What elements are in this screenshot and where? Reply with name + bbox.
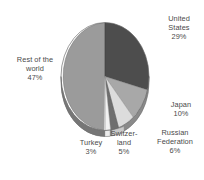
- pie-label-united-states: United States 29%: [156, 14, 202, 42]
- pie-label-russian-federation: Russian Federation 6%: [148, 128, 202, 156]
- pie-label-switzerland: Switzer- land 5%: [104, 129, 144, 157]
- pie-chart-screenshot: United States 29% Japan 10% Russian Fede…: [0, 0, 204, 180]
- pie-label-turkey: Turkey 3%: [72, 138, 110, 156]
- pie-label-japan: Japan 10%: [160, 100, 202, 118]
- pie-label-rest-of-the-world: Rest of the world 47%: [6, 55, 64, 83]
